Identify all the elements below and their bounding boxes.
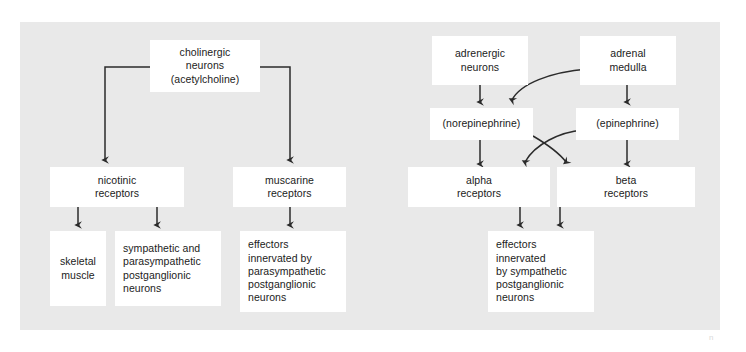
edge-cholinergic-to-muscarine (260, 67, 290, 160)
node-skeletal-muscle-label: skeletal muscle (60, 255, 96, 281)
node-beta-receptors-label: beta receptors (604, 174, 648, 200)
diagram-panel: cholinergic neurons (acetylcholine) nico… (20, 22, 720, 330)
node-sympathetic-parasympathetic-neurons[interactable]: sympathetic and parasympathetic postgang… (115, 231, 221, 306)
node-adrenal-medulla[interactable]: adrenal medulla (580, 36, 676, 85)
node-adrenergic-neurons[interactable]: adrenergic neurons (432, 36, 528, 85)
node-muscarine-receptors-label: muscarine receptors (265, 174, 314, 200)
node-adrenergic-neurons-label: adrenergic neurons (455, 47, 505, 73)
node-sympathetic-parasympathetic-neurons-label: sympathetic and parasympathetic postgang… (123, 242, 201, 295)
figure-root: cholinergic neurons (acetylcholine) nico… (0, 0, 746, 352)
node-cholinergic-neurons-label: cholinergic neurons (acetylcholine) (171, 46, 239, 86)
node-cholinergic-neurons[interactable]: cholinergic neurons (acetylcholine) (150, 40, 260, 92)
node-norepinephrine[interactable]: (norepinephrine) (430, 108, 533, 140)
node-parasympathetic-effectors-label: effectors innervated by parasympathetic … (248, 238, 326, 304)
node-nicotinic-receptors-label: nicotinic receptors (95, 174, 139, 200)
node-norepinephrine-label: (norepinephrine) (443, 117, 521, 130)
node-alpha-receptors-label: alpha receptors (457, 174, 501, 200)
node-sympathetic-effectors[interactable]: effectors innervated by sympathetic post… (488, 231, 594, 312)
node-parasympathetic-effectors[interactable]: effectors innervated by parasympathetic … (240, 231, 346, 312)
node-epinephrine-label: (epinephrine) (596, 117, 659, 130)
edge-cholinergic-to-nicotinic (105, 67, 150, 160)
node-sympathetic-effectors-label: effectors innervated by sympathetic post… (496, 238, 567, 304)
node-epinephrine[interactable]: (epinephrine) (576, 108, 679, 140)
node-adrenal-medulla-label: adrenal medulla (609, 47, 646, 73)
node-alpha-receptors[interactable]: alpha receptors (408, 167, 550, 207)
node-beta-receptors[interactable]: beta receptors (557, 167, 695, 207)
edge-norepinephrine-to-beta (533, 136, 566, 162)
corner-mark: n (709, 333, 713, 342)
node-muscarine-receptors[interactable]: muscarine receptors (233, 167, 346, 207)
node-skeletal-muscle[interactable]: skeletal muscle (50, 231, 106, 306)
node-nicotinic-receptors[interactable]: nicotinic receptors (50, 167, 184, 207)
edge-epinephrine-to-alpha (525, 130, 583, 162)
